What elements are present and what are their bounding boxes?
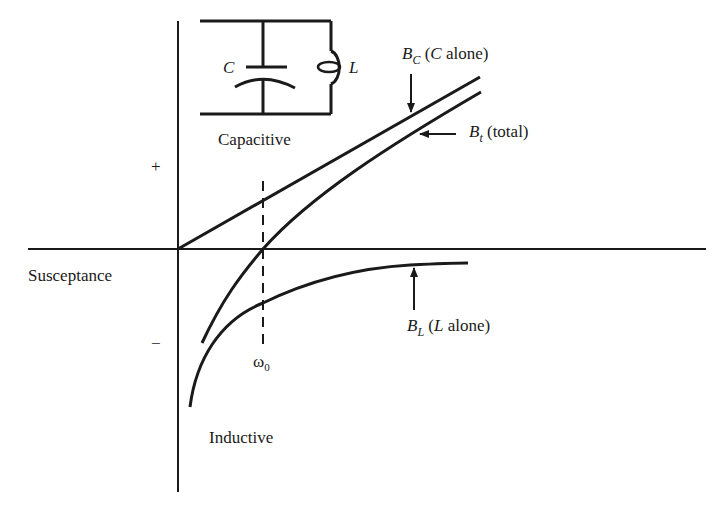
minus-sign: − bbox=[151, 334, 161, 354]
susceptance-diagram: C L Capacitive Inductive Susceptance + −… bbox=[0, 0, 728, 506]
omega-symbol: ω bbox=[253, 352, 264, 371]
bc-curve bbox=[178, 77, 480, 249]
susceptance-axis-label: Susceptance bbox=[28, 266, 112, 286]
plus-sign: + bbox=[151, 157, 161, 177]
lc-circuit-icon bbox=[200, 21, 340, 114]
omega0-label: ω0 bbox=[253, 352, 270, 372]
bt-label: Bt (total) bbox=[469, 122, 529, 142]
capacitor-label: C bbox=[223, 58, 234, 78]
inductive-region-label: Inductive bbox=[209, 428, 273, 448]
bl-label: BL (L alone) bbox=[407, 316, 490, 336]
capacitive-region-label: Capacitive bbox=[218, 130, 291, 150]
diagram-canvas bbox=[0, 0, 728, 506]
bc-label: BC (C alone) bbox=[402, 44, 488, 64]
omega-subscript: 0 bbox=[264, 361, 270, 373]
inductor-label: L bbox=[349, 58, 358, 78]
